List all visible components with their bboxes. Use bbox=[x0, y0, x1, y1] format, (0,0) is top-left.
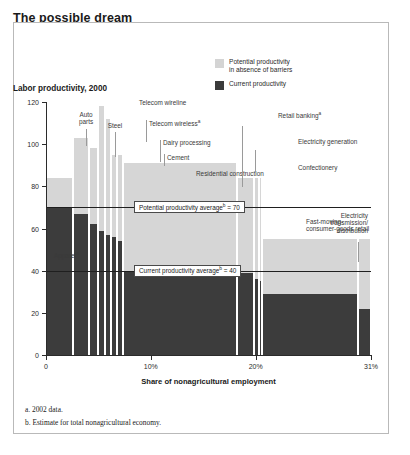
legend-label-current: Current productivity bbox=[229, 80, 292, 88]
current-productivity-average-label: Current productivity averageb = 40 bbox=[134, 265, 241, 277]
y-axis-label: 40 bbox=[31, 267, 39, 274]
label-leader-line bbox=[146, 120, 147, 142]
bar-label: Residential construction bbox=[196, 170, 264, 177]
bar-segment-current bbox=[123, 271, 237, 355]
bar-segment-current bbox=[89, 224, 98, 355]
potential-productivity-average-label: Potential productivity averageb = 70 bbox=[134, 201, 245, 213]
bar-sector[interactable] bbox=[46, 178, 73, 355]
x-axis-tick bbox=[371, 355, 372, 360]
label-leader-line bbox=[242, 126, 243, 187]
legend-swatch-potential-icon bbox=[215, 59, 224, 68]
y-axis-label: 100 bbox=[27, 141, 39, 148]
legend-item-potential: Potential productivity in absence of bar… bbox=[215, 58, 292, 73]
y-axis-label: 120 bbox=[27, 99, 39, 106]
bar-sector[interactable] bbox=[73, 138, 89, 355]
y-axis-label: 20 bbox=[31, 309, 39, 316]
footnote-a: a. 2002 data. bbox=[25, 403, 161, 416]
label-leader-line bbox=[86, 129, 87, 146]
chart-legend: Potential productivity in absence of bar… bbox=[215, 58, 292, 95]
label-leader-line bbox=[358, 242, 359, 262]
bar-label: Electricity generation bbox=[298, 138, 357, 145]
plot-area: ApparelaAutopartsSteelTelecom wirelineTe… bbox=[46, 102, 371, 355]
label-leader-line bbox=[164, 154, 165, 166]
bar-label: Apparela bbox=[54, 252, 79, 259]
legend-label-potential-line2: in absence of barriers bbox=[229, 66, 292, 74]
bar-label: Telecom wireline bbox=[139, 99, 186, 106]
x-axis-tick bbox=[151, 355, 152, 360]
bar-segment-current bbox=[262, 294, 358, 355]
y-axis-tick bbox=[42, 229, 46, 230]
x-axis-tick bbox=[256, 355, 257, 360]
plot-inner: ApparelaAutopartsSteelTelecom wirelineTe… bbox=[46, 102, 371, 355]
x-axis-label: 0 bbox=[44, 363, 48, 370]
bar-label: Retail bankinga bbox=[278, 112, 321, 119]
label-leader-line bbox=[115, 132, 116, 157]
y-axis-tick bbox=[42, 186, 46, 187]
bar-sector[interactable] bbox=[123, 163, 237, 355]
legend-item-current: Current productivity bbox=[215, 80, 292, 88]
bar-segment-current bbox=[73, 214, 89, 355]
bar-label: Autoparts bbox=[79, 111, 93, 126]
bar-label: Dairy processing bbox=[163, 139, 211, 146]
y-axis-tick bbox=[42, 313, 46, 314]
bar-segment-current bbox=[358, 309, 371, 355]
chart-title: Labor productivity, 2000 bbox=[13, 84, 107, 93]
x-axis bbox=[46, 355, 371, 356]
footnotes: a. 2002 data. b. Estimate for total nona… bbox=[25, 403, 161, 429]
y-axis-label: 80 bbox=[31, 183, 39, 190]
y-axis-tick bbox=[42, 102, 46, 103]
y-axis bbox=[46, 102, 47, 355]
bar-sector[interactable] bbox=[358, 239, 371, 355]
y-axis-tick bbox=[42, 271, 46, 272]
y-axis-tick bbox=[42, 144, 46, 145]
bar-label: Confectionery bbox=[298, 164, 337, 171]
y-axis-label: 60 bbox=[31, 225, 39, 232]
footnote-b: b. Estimate for total nonagricultural ec… bbox=[25, 416, 161, 429]
label-leader-line bbox=[255, 150, 256, 172]
x-axis-tick bbox=[46, 355, 47, 360]
x-axis-label: 31% bbox=[364, 363, 378, 370]
bar-label: Cement bbox=[167, 154, 189, 161]
bar-label: Steel bbox=[108, 122, 123, 129]
x-axis-label: 10% bbox=[144, 363, 158, 370]
bar-sector[interactable] bbox=[262, 239, 358, 355]
bar-label: Telecom wirelessa bbox=[149, 120, 200, 127]
bar-segment-current bbox=[237, 273, 254, 355]
x-axis-title: Share of nonagricultural employment bbox=[46, 377, 371, 386]
label-leader-line bbox=[160, 140, 161, 162]
bar-label: Electricitytransmission/distribution bbox=[330, 212, 368, 234]
bar-segment-current bbox=[46, 207, 73, 355]
x-axis-label: 20% bbox=[249, 363, 263, 370]
y-axis-label: 0 bbox=[35, 352, 39, 359]
legend-label-potential-line1: Potential productivity bbox=[229, 58, 292, 66]
legend-swatch-current-icon bbox=[215, 81, 224, 90]
bar-sector[interactable] bbox=[89, 148, 98, 355]
